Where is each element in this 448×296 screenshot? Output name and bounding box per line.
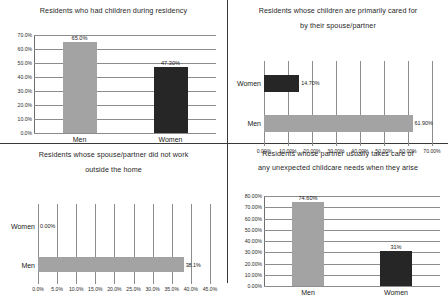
category-label: Men <box>73 136 87 143</box>
chart-title-line-2: any unexpected childcare needs when they… <box>228 158 448 172</box>
gridline <box>34 63 216 64</box>
gridline <box>264 230 440 231</box>
bar-men: 74.60% <box>292 202 324 286</box>
bar-fill <box>154 67 188 133</box>
x-axis-tick-label: 20.0% <box>107 286 121 292</box>
chart-panel-spouse-primary-care: Residents whose children are primarily c… <box>228 0 448 143</box>
gridline <box>264 286 440 287</box>
y-axis-tick-label: 30.00% <box>245 249 262 255</box>
y-axis-tick-label: 0.0% <box>20 130 32 136</box>
x-axis-tick-label: 40.0% <box>184 286 198 292</box>
y-axis-tick-label: 60.00% <box>245 216 262 222</box>
bar-men: 38.1% <box>38 257 184 272</box>
chart-title-line-2: outside the home <box>0 159 227 174</box>
gridline <box>264 196 440 197</box>
y-axis-tick-label: 10.00% <box>245 272 262 278</box>
y-axis-tick-label: 20.00% <box>245 261 262 267</box>
gridline <box>191 204 192 284</box>
y-axis-tick-label: 0.00% <box>248 283 262 289</box>
y-axis-tick-label: 50.00% <box>245 227 262 233</box>
bar-value-label: 61.90% <box>415 120 433 126</box>
chart-title-line-1: Residents whose children are primarily c… <box>228 0 448 15</box>
gridline <box>264 275 440 276</box>
bar-fill <box>264 115 413 132</box>
bar-value-label: 74.60% <box>299 195 318 201</box>
chart-title-line-1: Residents whose spouse/partner did not w… <box>0 144 227 159</box>
category-label: Women <box>159 136 183 143</box>
category-label: Women <box>384 289 408 296</box>
bar-fill <box>380 251 412 286</box>
x-axis-tick-label: 30.0% <box>145 286 159 292</box>
category-label: Men <box>301 289 315 296</box>
bar-value-label: 65.0% <box>72 35 88 41</box>
bar-value-label: 0.00% <box>40 223 55 229</box>
bar-fill <box>264 75 299 92</box>
chart-panel-residency-children: Residents who had children during reside… <box>0 0 227 143</box>
x-axis-tick-label: 0.0% <box>32 286 44 292</box>
x-axis-tick-label: 5.0% <box>51 286 63 292</box>
gridline <box>432 61 433 146</box>
gridline <box>312 61 313 146</box>
y-axis-tick-label: 20.0% <box>18 102 32 108</box>
bar-value-label: 38.1% <box>186 262 201 268</box>
gridline <box>34 49 216 50</box>
gridline <box>264 219 440 220</box>
y-axis-tick-label: 10.0% <box>18 116 32 122</box>
y-axis-tick-label: 40.00% <box>245 238 262 244</box>
category-label: Men <box>247 120 261 127</box>
bar-women: 14.70% <box>264 75 299 92</box>
gridline <box>34 91 216 92</box>
gridline <box>34 35 216 36</box>
gridline <box>34 133 216 134</box>
category-label: Women <box>11 222 35 229</box>
y-axis-tick-label: 50.0% <box>18 60 32 66</box>
chart-title: Residents who had children during reside… <box>0 0 227 15</box>
y-axis-tick-label: 30.0% <box>18 88 32 94</box>
gridline <box>360 61 361 146</box>
chart-title-line-1: Residents whose partner usually takes ca… <box>228 144 448 158</box>
bar-men: 65.0% <box>63 42 97 133</box>
gridline <box>336 61 337 146</box>
bar-men: 61.90% <box>264 115 413 132</box>
y-axis-tick-label: 60.0% <box>18 46 32 52</box>
bar-fill <box>38 257 184 272</box>
chart-panel-unexpected-childcare: Residents whose partner usually takes ca… <box>228 144 448 283</box>
x-axis-tick-label: 10.0% <box>69 286 83 292</box>
y-axis-tick-label: 70.0% <box>18 32 32 38</box>
bar-fill <box>292 202 324 286</box>
y-axis-tick-label: 70.00% <box>245 204 262 210</box>
bar-fill <box>63 42 97 133</box>
x-axis-tick-label: 35.0% <box>165 286 179 292</box>
x-axis-tick-label: 25.0% <box>126 286 140 292</box>
x-axis-tick-label: 45.0% <box>203 286 217 292</box>
bar-value-label: 14.70% <box>301 80 319 86</box>
bar-women: 47.30% <box>154 67 188 133</box>
gridline <box>210 204 211 284</box>
gridline <box>264 241 440 242</box>
gridline <box>34 105 216 106</box>
gridline <box>264 207 440 208</box>
chart-title-line-2: by their spouse/partner <box>228 15 448 30</box>
category-label: Women <box>237 80 261 87</box>
gridline <box>34 119 216 120</box>
chart-panel-spouse-not-working: Residents whose spouse/partner did not w… <box>0 144 227 283</box>
gridline <box>264 252 440 253</box>
gridline <box>408 61 409 146</box>
category-label: Men <box>21 261 35 268</box>
bar-value-label: 31% <box>390 244 401 250</box>
gridline <box>384 61 385 146</box>
x-axis-tick-label: 15.0% <box>88 286 102 292</box>
bar-women: 31% <box>380 251 412 286</box>
y-axis-tick-label: 40.0% <box>18 74 32 80</box>
y-axis-tick-label: 80.00% <box>245 193 262 199</box>
gridline <box>264 264 440 265</box>
gridline <box>34 77 216 78</box>
bar-value-label: 47.30% <box>161 60 180 66</box>
